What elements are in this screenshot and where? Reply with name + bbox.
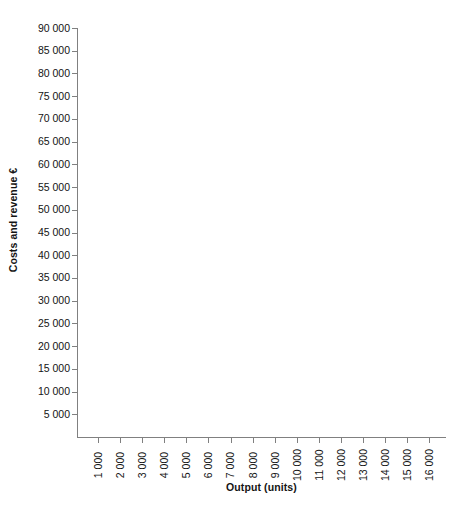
x-axis-tick-label-text: 12 000 [335, 449, 347, 481]
x-axis-tick-label: 12 000 [335, 441, 347, 481]
x-axis-tick-label-text: 1 000 [92, 452, 104, 478]
x-axis-tick-label-text: 8 000 [247, 452, 259, 478]
y-axis-tick-label: 50 000 [22, 204, 70, 215]
y-axis-tick-label: 30 000 [22, 295, 70, 306]
x-axis-tick-labels: 1 0002 0003 0004 0005 0006 0007 0008 000… [0, 441, 464, 483]
y-axis-tick-label: 5 000 [22, 409, 70, 420]
x-axis-tick-label: 5 000 [180, 441, 192, 481]
x-axis-tick-label: 9 000 [269, 441, 281, 481]
x-axis-tick-label: 7 000 [225, 441, 237, 481]
x-axis-tick-label-text: 15 000 [401, 449, 413, 481]
x-axis-tick-label: 15 000 [401, 441, 413, 481]
x-axis-tick-label-text: 2 000 [114, 452, 126, 478]
x-axis-tick-label: 8 000 [247, 441, 259, 481]
x-axis-tick-label-text: 13 000 [357, 449, 369, 481]
y-axis-tick-label: 70 000 [22, 113, 70, 124]
x-axis-tick-label: 10 000 [291, 441, 303, 481]
x-axis-tick-label-text: 5 000 [180, 452, 192, 478]
x-axis-tick-label-text: 10 000 [291, 449, 303, 481]
y-axis-tick-label: 75 000 [22, 91, 70, 102]
y-axis-tick-label: 40 000 [22, 250, 70, 261]
y-axis-tick-labels: 5 00010 00015 00020 00025 00030 00035 00… [22, 0, 74, 440]
y-axis-tick-label: 80 000 [22, 68, 70, 79]
x-axis-tick-label: 4 000 [158, 441, 170, 481]
chart-container: Costs and revenue € 5 00010 00015 00020 … [0, 0, 464, 508]
y-axis-title-text: Costs and revenue € [7, 168, 19, 273]
y-axis-tick-label: 20 000 [22, 341, 70, 352]
x-axis-tick-label-text: 4 000 [158, 452, 170, 478]
y-axis-tick-label: 60 000 [22, 159, 70, 170]
x-axis-tick-label-text: 11 000 [313, 449, 325, 480]
y-axis-tick-label: 65 000 [22, 136, 70, 147]
x-axis-tick-label: 6 000 [202, 441, 214, 481]
x-axis-tick-label-text: 3 000 [136, 452, 148, 478]
y-axis-tick-label: 25 000 [22, 318, 70, 329]
y-axis-tick-label: 45 000 [22, 227, 70, 238]
x-axis-tick-label: 3 000 [136, 441, 148, 481]
x-axis-tick-label-text: 6 000 [202, 452, 214, 478]
plot-area [77, 28, 446, 437]
x-axis-tick-label: 13 000 [357, 441, 369, 481]
x-axis-tick-label-text: 9 000 [269, 452, 281, 478]
y-axis-tick-label: 85 000 [22, 45, 70, 56]
x-axis-tick-label: 1 000 [92, 441, 104, 481]
y-axis-tick-label: 55 000 [22, 182, 70, 193]
x-axis-tick-label-text: 14 000 [379, 449, 391, 481]
x-axis-title: Output (units) [77, 481, 446, 493]
y-axis-tick-label: 35 000 [22, 272, 70, 283]
x-axis-tick-label-text: 7 000 [225, 452, 237, 478]
y-axis-tick-label: 10 000 [22, 386, 70, 397]
y-axis-tick-label: 15 000 [22, 363, 70, 374]
x-axis-tick-label: 14 000 [379, 441, 391, 481]
x-axis-tick-label: 2 000 [114, 441, 126, 481]
x-axis-tick-label: 11 000 [313, 441, 325, 481]
x-axis-tick-label: 16 000 [423, 441, 435, 481]
y-axis-tick-label: 90 000 [22, 23, 70, 34]
x-axis-tick-label-text: 16 000 [423, 449, 435, 481]
